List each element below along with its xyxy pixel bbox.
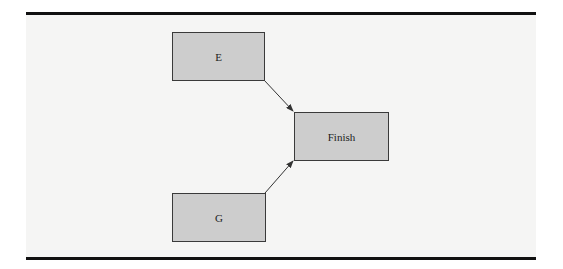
top-rule	[26, 12, 536, 15]
node-e: E	[172, 32, 265, 81]
node-g: G	[172, 193, 266, 242]
bottom-rule	[26, 257, 536, 260]
node-e-label: E	[215, 51, 222, 63]
node-finish-label: Finish	[328, 131, 356, 143]
diagram-panel	[26, 15, 536, 257]
node-finish: Finish	[294, 112, 389, 161]
node-g-label: G	[215, 212, 223, 224]
